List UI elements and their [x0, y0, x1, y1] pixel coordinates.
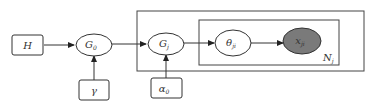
node-g0: G0	[76, 34, 112, 56]
plate-label-nj: Nj	[322, 52, 334, 65]
node-alpha0: α0	[151, 78, 182, 98]
node-theta: θji	[215, 30, 251, 56]
node-gamma: γ	[79, 80, 109, 100]
svg-text:H: H	[22, 40, 32, 51]
svg-text:γ: γ	[91, 85, 97, 96]
graphical-model-diagram: Nj H G0 γ Gj α0 θji xji	[0, 0, 376, 110]
node-x-observed: xji	[283, 28, 321, 54]
node-gj: Gj	[148, 33, 184, 55]
node-h: H	[12, 35, 43, 55]
